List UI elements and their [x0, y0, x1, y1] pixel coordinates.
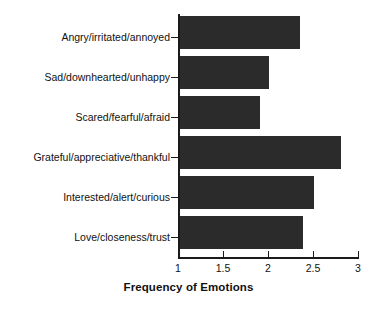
x-tick-1-5: [223, 251, 224, 258]
x-tick-label-3: 3: [355, 263, 361, 274]
bar-scared: [179, 96, 260, 129]
category-label-1: Sad/downhearted/unhappy: [0, 72, 170, 83]
bar-grateful: [179, 136, 341, 169]
x-tick-3: [358, 251, 359, 258]
x-tick-2-5: [313, 251, 314, 258]
x-tick-1: [178, 251, 179, 258]
category-label-4: Interested/alert/curious: [0, 192, 170, 203]
bar-sad: [179, 56, 269, 89]
x-tick-2: [268, 251, 269, 258]
x-tick-label-2-5: 2.5: [306, 263, 321, 274]
bar-chart: Angry/irritated/annoyed Sad/downhearted/…: [0, 0, 377, 310]
x-tick-label-1: 1: [175, 263, 181, 274]
category-label-2: Scared/fearful/afraid: [0, 112, 170, 123]
x-axis-title: Frequency of Emotions: [0, 281, 377, 293]
category-label-0: Angry/irritated/annoyed: [0, 32, 170, 43]
x-tick-label-1-5: 1.5: [216, 263, 231, 274]
category-label-5: Love/closeness/trust: [0, 232, 170, 243]
x-tick-label-2: 2: [265, 263, 271, 274]
bar-angry: [179, 16, 300, 49]
bar-love: [179, 216, 303, 249]
bar-interested: [179, 176, 314, 209]
y-axis-line: [178, 14, 180, 259]
category-label-3: Grateful/appreciative/thankful: [0, 152, 170, 163]
